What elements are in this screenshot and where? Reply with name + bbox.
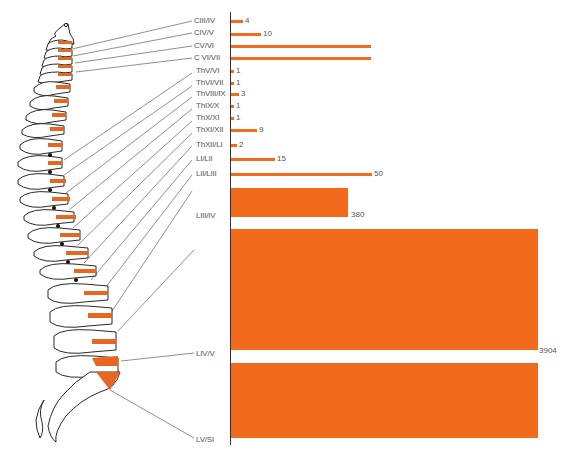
value-l1-2: 15	[277, 154, 286, 164]
bar-c4-5	[231, 33, 261, 36]
bar-th8-9	[231, 93, 239, 96]
value-l2-3: 50	[374, 169, 383, 179]
bar-th10-11	[231, 117, 234, 120]
label-th5-6: ThV/VI	[196, 66, 219, 76]
label-th6-7: ThVI/VII	[196, 78, 223, 88]
bar-th5-6	[231, 70, 234, 73]
bar-l2-3	[231, 173, 372, 176]
label-c6-7: C VI/VII	[194, 53, 220, 63]
bar-c5-6	[231, 45, 371, 48]
label-th9-10: ThIX/X	[196, 101, 219, 111]
value-th6-7: 1	[236, 78, 240, 88]
bar-th6-7	[231, 82, 234, 85]
label-c3-4: CIII/IV	[194, 16, 215, 26]
label-l3-4: LIII/IV	[196, 211, 216, 221]
label-th11-12: ThXI/XII	[196, 125, 223, 135]
value-th5-6: 1	[236, 66, 240, 76]
label-l5-s1: LV/SI	[196, 435, 214, 445]
label-c4-5: CIV/V	[194, 28, 214, 38]
value-l4-5: 3904	[539, 346, 557, 356]
label-l2-3: LII/LIII	[196, 169, 217, 179]
value-c4-5: 10	[263, 29, 272, 39]
label-th12-l1: ThXII/LI	[196, 140, 222, 150]
bar-l4-5	[231, 229, 538, 350]
bar-c6-7	[231, 57, 371, 60]
label-c5-6: CV/VI	[194, 41, 214, 51]
value-th10-11: 1	[236, 113, 240, 123]
value-th12-l1: 2	[239, 140, 243, 150]
label-th10-11: ThX/XI	[196, 113, 219, 123]
bar-th12-l1	[231, 144, 237, 147]
label-l1-2: LI/LII	[196, 154, 213, 164]
value-th8-9: 3	[241, 89, 245, 99]
value-c3-4: 4	[245, 16, 249, 26]
bar-c3-4	[231, 20, 243, 23]
bar-l1-2	[231, 158, 275, 161]
value-th11-12: 9	[259, 125, 263, 135]
chart-stage: CIII/IV CIV/V CV/VI C VI/VII ThV/VI ThVI…	[0, 0, 567, 460]
bar-l5-s1	[231, 363, 538, 438]
value-th9-10: 1	[236, 101, 240, 111]
bar-l3-4	[231, 188, 348, 217]
label-l4-5: LIV/V	[196, 349, 215, 359]
value-l3-4: 380	[351, 210, 364, 220]
bar-th11-12	[231, 129, 257, 132]
label-th8-9: ThVIII/IX	[196, 89, 225, 99]
bar-th9-10	[231, 105, 234, 108]
